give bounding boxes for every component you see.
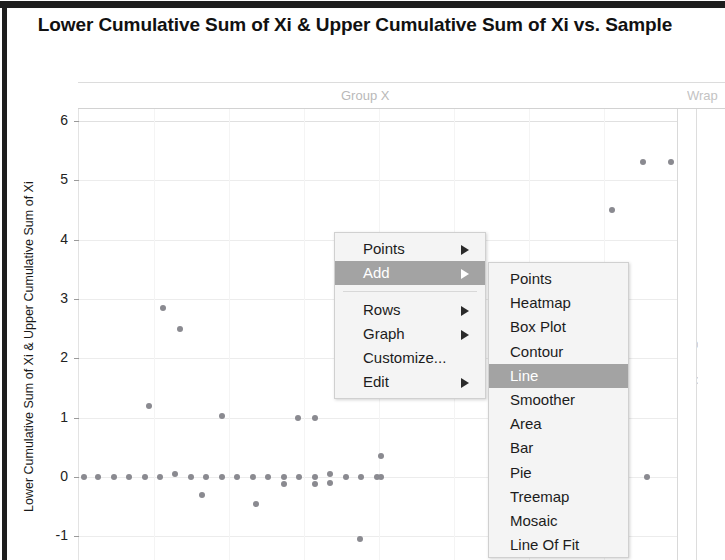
- menu-item-label: Rows: [363, 298, 401, 322]
- menu-item-graph[interactable]: Graph: [335, 322, 485, 346]
- plot-panel-far-right: [698, 109, 725, 560]
- menu-item-label: Customize...: [363, 346, 446, 370]
- menu-item-points[interactable]: Points: [335, 237, 485, 261]
- y-tick-label: 0: [8, 468, 68, 484]
- data-point[interactable]: [250, 474, 256, 480]
- menu-item-label: Contour: [510, 340, 563, 364]
- group-x-label: Group X: [341, 88, 389, 103]
- data-point[interactable]: [343, 474, 349, 480]
- y-tick-mark: [74, 358, 79, 359]
- data-point[interactable]: [188, 474, 194, 480]
- data-point[interactable]: [126, 474, 132, 480]
- menu-item-label: Points: [363, 237, 405, 261]
- menu-item-label: Box Plot: [510, 315, 566, 339]
- data-point[interactable]: [295, 415, 301, 421]
- wrap-label: Wrap: [687, 88, 725, 103]
- y-tick-mark: [74, 418, 79, 419]
- menu-item-label: Treemap: [510, 485, 569, 509]
- data-point[interactable]: [312, 415, 318, 421]
- y-tick-label: 6: [8, 112, 68, 128]
- menu-item-label: Add: [363, 261, 390, 285]
- submenu-item-heatmap[interactable]: Heatmap: [489, 291, 628, 315]
- y-tick-label: 2: [8, 349, 68, 365]
- menu-item-label: Heatmap: [510, 291, 571, 315]
- y-tick-label: 1: [8, 409, 68, 425]
- data-point[interactable]: [312, 481, 318, 487]
- menu-item-add[interactable]: Add: [335, 261, 485, 285]
- data-point[interactable]: [609, 207, 615, 213]
- submenu-item-line-of-fit[interactable]: Line Of Fit: [489, 533, 628, 557]
- submenu-item-smoother[interactable]: Smoother: [489, 388, 628, 412]
- data-point[interactable]: [281, 474, 287, 480]
- gridline-y: [79, 121, 677, 122]
- data-point[interactable]: [142, 474, 148, 480]
- chevron-right-icon: [461, 245, 469, 255]
- menu-item-label: Graph: [363, 322, 405, 346]
- window-top-border: [0, 1, 725, 8]
- menu-item-label: Area: [510, 412, 542, 436]
- menu-item-edit[interactable]: Edit: [335, 370, 485, 394]
- chevron-right-icon: [461, 330, 469, 340]
- data-point[interactable]: [199, 492, 205, 498]
- menu-item-label: Edit: [363, 370, 389, 394]
- window-left-border: [2, 1, 7, 560]
- submenu-item-contour[interactable]: Contour: [489, 340, 628, 364]
- y-tick-label: 4: [8, 231, 68, 247]
- submenu-item-mosaic[interactable]: Mosaic: [489, 509, 628, 533]
- data-point[interactable]: [219, 474, 225, 480]
- data-point[interactable]: [160, 305, 166, 311]
- chevron-right-icon: [461, 306, 469, 316]
- submenu-item-points[interactable]: Points: [489, 267, 628, 291]
- y-tick-mark: [74, 240, 79, 241]
- data-point[interactable]: [253, 501, 259, 507]
- y-tick-label: 3: [8, 290, 68, 306]
- y-tick-mark: [74, 477, 79, 478]
- application-window: Lower Cumulative Sum of Xi & Upper Cumul…: [0, 0, 725, 560]
- menu-item-label: Smoother: [510, 388, 575, 412]
- gridline-x: [154, 109, 155, 560]
- gridline-x: [304, 109, 305, 560]
- y-tick-label: -1: [8, 527, 68, 543]
- menu-item-label: Points: [510, 267, 552, 291]
- menu-item-label: Bar: [510, 436, 533, 460]
- y-tick-mark: [74, 299, 79, 300]
- menu-item-label: Mosaic: [510, 509, 558, 533]
- gridline-y: [79, 180, 677, 181]
- data-point[interactable]: [111, 474, 117, 480]
- menu-item-rows[interactable]: Rows: [335, 298, 485, 322]
- submenu-item-pie[interactable]: Pie: [489, 461, 628, 485]
- menu-separator: [343, 291, 477, 292]
- data-point[interactable]: [146, 403, 152, 409]
- group-header-band: [78, 82, 725, 109]
- menu-item-label: Line: [510, 364, 538, 388]
- y-tick-mark: [74, 180, 79, 181]
- chevron-right-icon: [461, 378, 469, 388]
- data-point[interactable]: [157, 474, 163, 480]
- data-point[interactable]: [357, 536, 363, 542]
- submenu-item-area[interactable]: Area: [489, 412, 628, 436]
- submenu-item-line[interactable]: Line: [489, 364, 628, 388]
- menu-item-label: Line Of Fit: [510, 533, 579, 557]
- data-point[interactable]: [312, 474, 318, 480]
- add-submenu[interactable]: PointsHeatmapBox PlotContourLineSmoother…: [488, 262, 629, 558]
- submenu-item-box-plot[interactable]: Box Plot: [489, 315, 628, 339]
- y-tick-label: 5: [8, 171, 68, 187]
- gridline-x: [229, 109, 230, 560]
- context-menu[interactable]: PointsAddRowsGraphCustomize...Edit: [334, 232, 486, 399]
- plot-panel-right[interactable]: [679, 109, 697, 560]
- submenu-item-treemap[interactable]: Treemap: [489, 485, 628, 509]
- chevron-right-icon: [461, 269, 469, 279]
- y-tick-mark: [74, 536, 79, 537]
- y-tick-mark: [74, 121, 79, 122]
- data-point[interactable]: [281, 481, 287, 487]
- y-axis-title: Lower Cumulative Sum of Xi & Upper Cumul…: [22, 181, 36, 512]
- data-point[interactable]: [95, 474, 101, 480]
- submenu-item-bar[interactable]: Bar: [489, 436, 628, 460]
- menu-item-label: Pie: [510, 461, 532, 485]
- page-title: Lower Cumulative Sum of Xi & Upper Cumul…: [10, 12, 700, 38]
- menu-item-customize[interactable]: Customize...: [335, 346, 485, 370]
- data-point[interactable]: [177, 326, 183, 332]
